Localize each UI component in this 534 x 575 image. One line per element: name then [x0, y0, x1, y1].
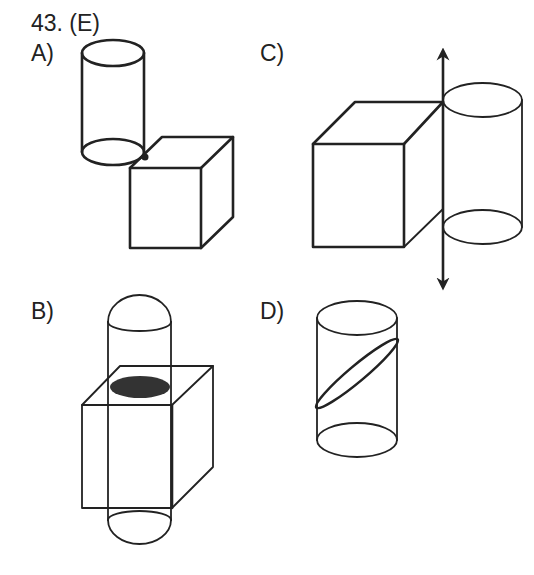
- cylinder-shape: [443, 83, 522, 244]
- option-a-figure: [82, 40, 233, 248]
- option-b-figure: [82, 295, 213, 544]
- cylinder-shape: [108, 295, 171, 544]
- cube-shape: [130, 137, 233, 248]
- option-c-figure: [313, 54, 522, 284]
- shaded-cross-section: [110, 376, 170, 398]
- diagonal-cross-section: [311, 333, 402, 413]
- cube-shape: [313, 102, 443, 247]
- figure-canvas: [0, 0, 534, 575]
- cylinder-shape: [317, 301, 397, 457]
- cylinder-shape: [82, 40, 144, 165]
- option-d-figure: [311, 301, 402, 457]
